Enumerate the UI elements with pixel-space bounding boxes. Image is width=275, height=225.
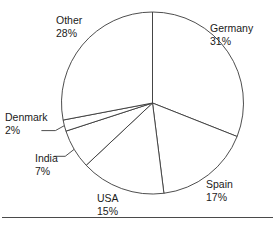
slice-label-spain-name: Spain — [206, 178, 233, 191]
slice-label-usa-value: 15% — [97, 205, 119, 218]
slice-label-spain-value: 17% — [206, 191, 233, 204]
slice-label-denmark-value: 2% — [5, 124, 48, 137]
slice-label-india-value: 7% — [35, 165, 58, 178]
slice-label-germany-name: Germany — [210, 22, 253, 35]
slice-label-other-name: Other — [56, 14, 82, 27]
pie-chart-figure: Other 28% Germany 31% Spain 17% USA 15% … — [0, 0, 275, 225]
slice-label-other: Other 28% — [56, 14, 82, 39]
slice-label-spain: Spain 17% — [206, 178, 233, 203]
slice-label-usa: USA 15% — [97, 192, 119, 217]
slice-label-india-name: India — [35, 152, 58, 165]
slice-label-denmark: Denmark 2% — [5, 111, 48, 136]
slice-label-germany-value: 31% — [210, 35, 253, 48]
slice-label-other-value: 28% — [56, 27, 82, 40]
slice-label-denmark-name: Denmark — [5, 111, 48, 124]
slice-label-india: India 7% — [35, 152, 58, 177]
slice-label-germany: Germany 31% — [210, 22, 253, 47]
slice-label-usa-name: USA — [97, 192, 119, 205]
